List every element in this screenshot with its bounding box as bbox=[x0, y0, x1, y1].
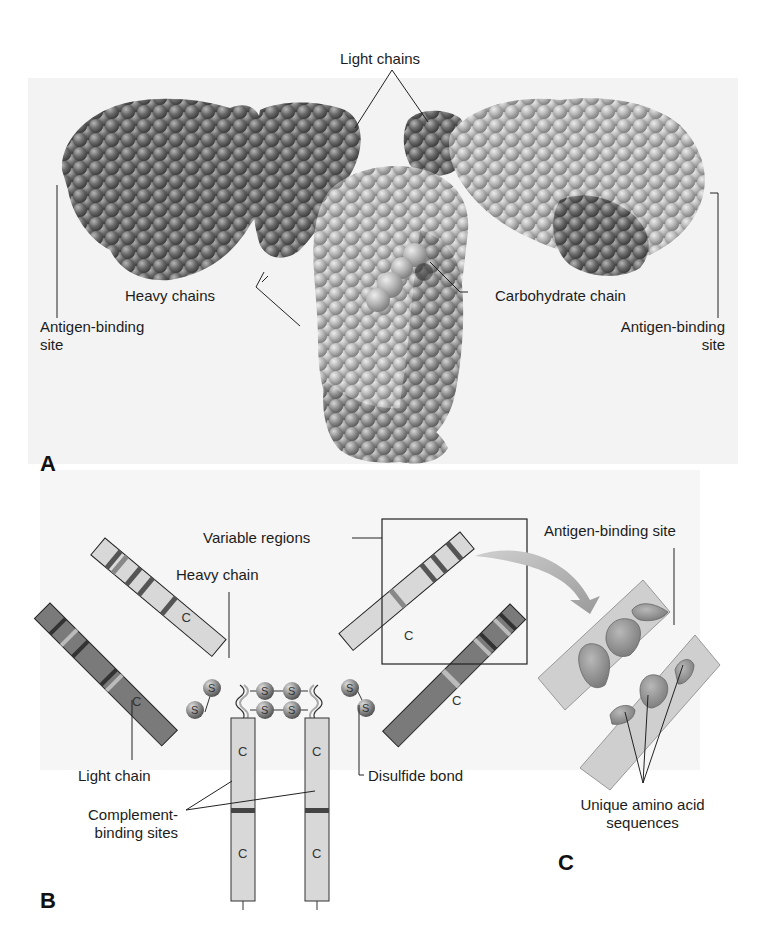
panel-letter-c: C bbox=[558, 850, 574, 876]
panel-letter-a: A bbox=[40, 451, 56, 477]
svg-text:S: S bbox=[191, 704, 198, 716]
antigen-binding-closeup bbox=[475, 550, 720, 790]
light-chain-right bbox=[383, 604, 526, 747]
svg-text:C: C bbox=[312, 744, 321, 759]
label-antigen-binding-left-1: Antigen-binding bbox=[40, 318, 144, 336]
svg-text:S: S bbox=[346, 682, 353, 694]
label-antigen-binding-left-2: site bbox=[40, 336, 63, 354]
label-light-chains: Light chains bbox=[340, 50, 420, 68]
label-complement-2: binding sites bbox=[40, 824, 178, 842]
svg-text:S: S bbox=[208, 682, 215, 694]
label-unique-1: Unique amino acid bbox=[555, 796, 730, 814]
svg-text:C: C bbox=[132, 694, 141, 709]
svg-text:S: S bbox=[288, 704, 295, 716]
svg-text:S: S bbox=[288, 685, 295, 697]
heavy-chain-stem-left: C C bbox=[231, 718, 255, 910]
heavy-chain-right-c: C bbox=[404, 628, 413, 643]
svg-text:C: C bbox=[312, 846, 321, 861]
label-carbohydrate-chain: Carbohydrate chain bbox=[495, 287, 626, 305]
space-filling-model bbox=[62, 98, 705, 463]
label-antigen-binding-right-2: site bbox=[582, 336, 725, 354]
curved-arrow-icon bbox=[475, 550, 600, 614]
label-heavy-chains: Heavy chains bbox=[125, 287, 215, 305]
heavy-chain-stem-right: C C bbox=[305, 718, 329, 910]
svg-text:S: S bbox=[261, 685, 268, 697]
antibody-schematic: C C C C bbox=[34, 519, 527, 910]
svg-text:C: C bbox=[238, 744, 247, 759]
panel-letter-b: B bbox=[40, 888, 56, 914]
label-antigen-binding-right-1: Antigen-binding bbox=[582, 318, 725, 336]
label-complement-1: Complement- bbox=[40, 806, 178, 824]
label-heavy-chain: Heavy chain bbox=[176, 566, 259, 584]
svg-text:S: S bbox=[362, 702, 369, 714]
label-antigen-binding-site: Antigen-binding site bbox=[544, 522, 676, 540]
svg-text:S: S bbox=[261, 704, 268, 716]
label-light-chain: Light chain bbox=[78, 767, 151, 785]
light-chain-right-c: C bbox=[452, 693, 461, 708]
sulfur-atoms: S S S S S S S S bbox=[186, 679, 375, 719]
svg-text:C: C bbox=[182, 610, 191, 625]
svg-text:C: C bbox=[238, 846, 247, 861]
heavy-chain-left: C bbox=[91, 538, 226, 657]
label-variable-regions: Variable regions bbox=[203, 529, 310, 547]
antibody-figure: C C C C bbox=[0, 0, 765, 934]
light-chain-left: C bbox=[34, 603, 177, 746]
label-unique-2: sequences bbox=[555, 814, 730, 832]
label-disulfide-bond: Disulfide bond bbox=[368, 767, 463, 785]
